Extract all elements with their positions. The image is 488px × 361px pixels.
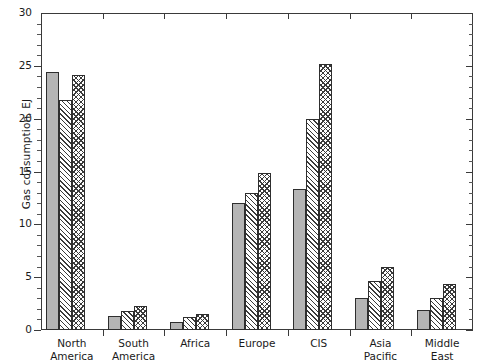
y-tick-minor-right xyxy=(469,76,473,77)
y-tick-minor xyxy=(37,150,41,151)
y-tick-minor xyxy=(37,214,41,215)
x-tick-label-line: Middle xyxy=(399,337,485,350)
bar xyxy=(170,322,183,330)
y-tick-minor xyxy=(37,55,41,56)
y-tick-minor xyxy=(37,267,41,268)
x-axis-separator-tick xyxy=(164,330,165,336)
x-tick-label-line: East xyxy=(399,350,485,361)
bar xyxy=(293,189,306,330)
bar-group xyxy=(417,284,456,330)
bar xyxy=(381,267,394,330)
x-axis-separator-tick xyxy=(288,330,289,336)
y-tick-major-right xyxy=(466,224,473,225)
y-tick-minor xyxy=(37,309,41,310)
top-axis-tick xyxy=(103,13,104,19)
y-tick-minor xyxy=(37,193,41,194)
y-tick-minor xyxy=(37,298,41,299)
x-axis-separator-tick xyxy=(226,330,227,336)
y-tick-minor xyxy=(37,34,41,35)
y-axis-title: Gas consumption, EJ xyxy=(20,74,32,234)
y-tick-minor xyxy=(37,288,41,289)
y-tick-minor xyxy=(37,76,41,77)
y-tick-minor xyxy=(37,235,41,236)
bar-group xyxy=(46,72,85,330)
bar xyxy=(72,75,85,330)
y-tick-label: 25 xyxy=(0,60,32,71)
y-tick-major xyxy=(34,224,41,225)
y-tick-minor-right xyxy=(469,55,473,56)
y-tick-major-right xyxy=(466,330,473,331)
bar xyxy=(245,193,258,330)
bar-group xyxy=(293,64,332,330)
y-tick-minor-right xyxy=(469,24,473,25)
y-tick-minor xyxy=(37,319,41,320)
top-axis-tick xyxy=(164,13,165,19)
bar xyxy=(319,64,332,330)
bar xyxy=(134,306,147,330)
y-tick-major xyxy=(34,172,41,173)
bar xyxy=(108,316,121,330)
bar-group xyxy=(232,173,271,330)
y-tick-minor xyxy=(37,140,41,141)
y-tick-minor-right xyxy=(469,256,473,257)
bar-group xyxy=(108,306,147,330)
x-axis-separator-tick xyxy=(350,330,351,336)
y-tick-minor-right xyxy=(469,98,473,99)
y-tick-label: 10 xyxy=(0,218,32,229)
y-tick-minor xyxy=(37,108,41,109)
bar xyxy=(59,100,72,330)
y-tick-minor-right xyxy=(469,245,473,246)
y-tick-major xyxy=(34,277,41,278)
y-tick-minor-right xyxy=(469,203,473,204)
bar xyxy=(368,281,381,330)
y-tick-major-right xyxy=(466,172,473,173)
y-tick-minor-right xyxy=(469,193,473,194)
y-tick-major-right xyxy=(466,66,473,67)
y-tick-minor-right xyxy=(469,150,473,151)
y-tick-minor-right xyxy=(469,309,473,310)
bar-group xyxy=(170,314,209,330)
y-tick-minor xyxy=(37,245,41,246)
y-tick-minor-right xyxy=(469,34,473,35)
y-tick-label: 30 xyxy=(0,7,32,18)
y-tick-minor xyxy=(37,203,41,204)
top-axis-tick xyxy=(288,13,289,19)
x-axis-separator-tick xyxy=(411,330,412,336)
bar xyxy=(121,311,134,330)
bar xyxy=(258,173,271,330)
y-tick-label: 20 xyxy=(0,113,32,124)
y-tick-minor-right xyxy=(469,45,473,46)
bar xyxy=(355,298,368,330)
gas-consumption-bar-chart: Gas consumption, EJ 051015202530 NorthAm… xyxy=(0,0,488,361)
top-axis-tick xyxy=(350,13,351,19)
bar xyxy=(306,119,319,330)
bar xyxy=(183,317,196,330)
y-tick-minor-right xyxy=(469,235,473,236)
y-tick-minor xyxy=(37,182,41,183)
y-tick-minor-right xyxy=(469,140,473,141)
y-tick-minor xyxy=(37,24,41,25)
y-tick-minor-right xyxy=(469,182,473,183)
y-tick-minor xyxy=(37,161,41,162)
top-axis-tick xyxy=(411,13,412,19)
y-tick-minor xyxy=(37,129,41,130)
y-tick-label: 15 xyxy=(0,166,32,177)
x-tick-label: MiddleEast xyxy=(399,337,485,361)
x-axis-separator-tick xyxy=(103,330,104,336)
y-tick-minor xyxy=(37,98,41,99)
bar xyxy=(232,203,245,330)
y-tick-minor-right xyxy=(469,298,473,299)
y-tick-minor xyxy=(37,45,41,46)
y-tick-minor xyxy=(37,87,41,88)
y-tick-minor-right xyxy=(469,108,473,109)
y-tick-major xyxy=(34,66,41,67)
y-tick-major xyxy=(34,119,41,120)
x-tick-label-line: America xyxy=(91,350,177,361)
top-axis-tick xyxy=(226,13,227,19)
y-tick-minor xyxy=(37,256,41,257)
y-tick-major-right xyxy=(466,277,473,278)
bar xyxy=(417,310,430,330)
y-tick-major-right xyxy=(466,119,473,120)
y-tick-major xyxy=(34,330,41,331)
y-tick-minor-right xyxy=(469,319,473,320)
